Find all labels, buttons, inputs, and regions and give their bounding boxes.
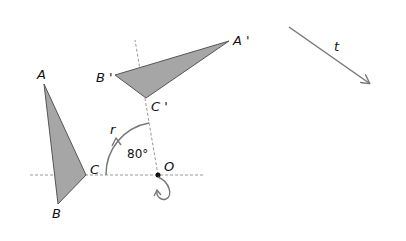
- transformation-diagram: A B C A ' B ' C ' O r 80° t: [0, 0, 406, 241]
- label-b-prime: B ': [96, 70, 113, 85]
- label-a: A: [36, 67, 46, 82]
- label-r: r: [110, 122, 117, 137]
- center-point-o: [156, 173, 161, 178]
- triangle-abc: [44, 84, 86, 204]
- label-a-prime: A ': [232, 33, 250, 48]
- label-b: B: [52, 206, 61, 221]
- label-c: C: [90, 162, 100, 177]
- triangle-a-prime-b-prime-c-prime: [115, 41, 229, 98]
- translation-arrow-t: [289, 27, 369, 83]
- label-c-prime: C ': [151, 99, 168, 114]
- label-t: t: [334, 39, 340, 54]
- label-o: O: [164, 159, 174, 174]
- angle-label: 80°: [127, 147, 148, 161]
- loop-arrow-icon: [157, 177, 170, 199]
